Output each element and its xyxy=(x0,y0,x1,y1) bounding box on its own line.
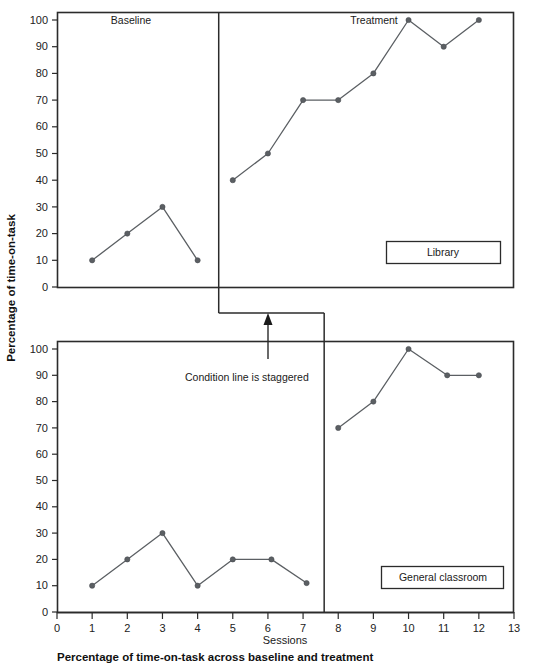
phase-label-baseline-library: Baseline xyxy=(111,14,151,26)
y-tick-label: 10 xyxy=(36,254,48,266)
data-point xyxy=(476,373,481,378)
data-point xyxy=(336,425,341,430)
x-tick-label: 3 xyxy=(159,622,165,634)
arrow-head-icon xyxy=(264,313,273,325)
y-tick-label: 20 xyxy=(36,553,48,565)
data-point xyxy=(300,98,305,103)
panel-general-classroom-y-ticks xyxy=(52,349,57,612)
y-tick-label: 40 xyxy=(36,500,48,512)
legend-label-library: Library xyxy=(427,246,460,258)
figure-caption: Percentage of time-on-task across baseli… xyxy=(57,651,374,663)
x-tick-label: 1 xyxy=(89,622,95,634)
panel-library-series xyxy=(90,17,482,263)
series-line xyxy=(92,533,306,586)
x-tick-label: 7 xyxy=(300,622,306,634)
panel-library-y-tick-labels: 0102030405060708090100 xyxy=(30,14,48,293)
panel-library: 0102030405060708090100 Baseline Treatmen… xyxy=(30,13,514,293)
annotation-arrow xyxy=(264,313,273,359)
x-tick-label: 2 xyxy=(124,622,130,634)
x-tick-label: 4 xyxy=(195,622,201,634)
y-tick-label: 30 xyxy=(36,201,48,213)
data-point xyxy=(265,151,270,156)
data-point xyxy=(90,258,95,263)
y-tick-label: 70 xyxy=(36,94,48,106)
x-axis-tick-labels: 012345678910111213 xyxy=(54,622,520,634)
data-point xyxy=(230,557,235,562)
data-point xyxy=(371,71,376,76)
x-tick-label: 5 xyxy=(230,622,236,634)
x-axis: 012345678910111213 Sessions xyxy=(54,612,520,646)
x-tick-label: 6 xyxy=(265,622,271,634)
data-point xyxy=(406,17,411,22)
legend-label-general-classroom: General classroom xyxy=(399,571,487,583)
x-axis-label: Sessions xyxy=(263,634,308,646)
data-point xyxy=(90,583,95,588)
y-tick-label: 70 xyxy=(36,422,48,434)
data-point xyxy=(304,580,309,585)
series-line xyxy=(92,207,197,260)
y-tick-label: 10 xyxy=(36,579,48,591)
x-tick-label: 0 xyxy=(54,622,60,634)
data-point xyxy=(476,17,481,22)
data-point xyxy=(195,258,200,263)
data-point xyxy=(125,557,130,562)
y-tick-label: 40 xyxy=(36,174,48,186)
x-tick-label: 9 xyxy=(370,622,376,634)
y-tick-label: 100 xyxy=(30,343,48,355)
data-point xyxy=(336,98,341,103)
time-on-task-chart: Percentage of time-on-task 0102030405060… xyxy=(0,0,533,666)
y-tick-label: 90 xyxy=(36,40,48,52)
y-tick-label: 0 xyxy=(42,606,48,618)
y-tick-label: 50 xyxy=(36,474,48,486)
panel-general-classroom-y-tick-labels: 0102030405060708090100 xyxy=(30,343,48,618)
data-point xyxy=(371,399,376,404)
x-tick-label: 13 xyxy=(508,622,520,634)
x-tick-label: 11 xyxy=(438,622,449,634)
phase-label-treatment-library: Treatment xyxy=(350,14,398,26)
data-point xyxy=(406,346,411,351)
y-tick-label: 80 xyxy=(36,395,48,407)
y-tick-label: 0 xyxy=(42,281,48,293)
data-point xyxy=(269,557,274,562)
series-line xyxy=(233,20,479,180)
data-point xyxy=(195,583,200,588)
y-tick-label: 20 xyxy=(36,227,48,239)
data-point xyxy=(160,531,165,536)
x-tick-label: 10 xyxy=(402,622,414,634)
data-point xyxy=(441,44,446,49)
y-tick-label: 60 xyxy=(36,448,48,460)
y-tick-label: 50 xyxy=(36,147,48,159)
staggered-condition-line xyxy=(219,12,324,612)
panel-library-y-ticks xyxy=(52,20,57,287)
y-axis-label: Percentage of time-on-task xyxy=(5,214,17,362)
y-tick-label: 80 xyxy=(36,67,48,79)
data-point xyxy=(160,204,165,209)
y-tick-label: 60 xyxy=(36,120,48,132)
x-tick-label: 12 xyxy=(473,622,485,634)
data-point xyxy=(445,373,450,378)
figure-container: Percentage of time-on-task 0102030405060… xyxy=(0,0,533,666)
annotation-label: Condition line is staggered xyxy=(185,371,309,383)
y-tick-label: 100 xyxy=(30,14,48,26)
data-point xyxy=(230,178,235,183)
series-line xyxy=(338,349,479,428)
y-tick-label: 90 xyxy=(36,369,48,381)
y-tick-label: 30 xyxy=(36,527,48,539)
data-point xyxy=(125,231,130,236)
x-tick-label: 8 xyxy=(335,622,341,634)
